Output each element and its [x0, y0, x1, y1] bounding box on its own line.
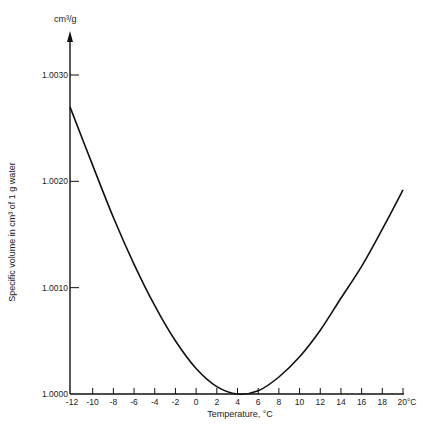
x-tick-label: -2: [172, 397, 180, 407]
x-tick-label: -8: [110, 397, 118, 407]
x-tick-label: 6: [256, 397, 261, 407]
x-tick-label: 20°C: [398, 397, 417, 407]
x-ticks: -12-10-8-6-4-202468101214161820°C: [66, 388, 417, 407]
y-tick-label: 1.0000: [42, 389, 68, 399]
y-ticks: 1.00001.00101.00201.0030: [42, 70, 79, 399]
x-tick-label: 10: [295, 397, 305, 407]
x-tick-label: 0: [194, 397, 199, 407]
x-tick-label: -10: [87, 397, 100, 407]
x-tick-label: 12: [316, 397, 326, 407]
data-series: [70, 107, 403, 394]
x-tick-label: -4: [151, 397, 159, 407]
y-tick-label: 1.0010: [42, 283, 68, 293]
y-axis: [67, 31, 73, 394]
x-tick-label: 4: [235, 397, 240, 407]
y-axis-title: Specific volume in cm³ of 1 g water: [7, 162, 17, 302]
x-tick-label: 18: [378, 397, 388, 407]
x-tick-label: 16: [357, 397, 367, 407]
specific-volume-curve: [70, 107, 403, 394]
x-tick-label: -6: [130, 397, 138, 407]
x-tick-label: -12: [66, 397, 79, 407]
y-unit-text: cm³/g: [54, 14, 77, 24]
arrow-up-icon: [67, 31, 73, 42]
x-tick-label: 14: [336, 397, 346, 407]
specific-volume-chart: cm³/g 1.00001.00101.00201.0030 -12-10-8-…: [0, 0, 426, 427]
x-tick-label: 8: [277, 397, 282, 407]
x-tick-label: 2: [214, 397, 219, 407]
y-unit-label: cm³/g: [54, 14, 77, 24]
y-tick-label: 1.0030: [42, 70, 68, 80]
x-axis-title: Temperature, °C: [207, 409, 273, 419]
y-tick-label: 1.0020: [42, 176, 68, 186]
